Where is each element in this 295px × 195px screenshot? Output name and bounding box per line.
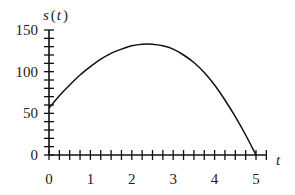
x-tick-label: 1	[87, 171, 95, 187]
y-tick-label: 50	[23, 105, 38, 121]
y-tick-label: 0	[31, 147, 39, 163]
y-tick-label: 100	[16, 64, 39, 80]
x-tick-label: 5	[252, 171, 260, 187]
ticks-layer	[44, 30, 266, 160]
chart: 012345050100150 t s(t)	[0, 0, 295, 195]
x-axis-label: t	[276, 152, 281, 168]
x-tick-label: 0	[45, 171, 53, 187]
y-tick-label: 150	[16, 22, 39, 38]
x-tick-label: 2	[128, 171, 136, 187]
x-tick-label: 4	[211, 171, 219, 187]
y-axis-label: s(t)	[43, 7, 68, 24]
x-tick-label: 3	[169, 171, 177, 187]
series-line-s-t	[49, 44, 256, 155]
